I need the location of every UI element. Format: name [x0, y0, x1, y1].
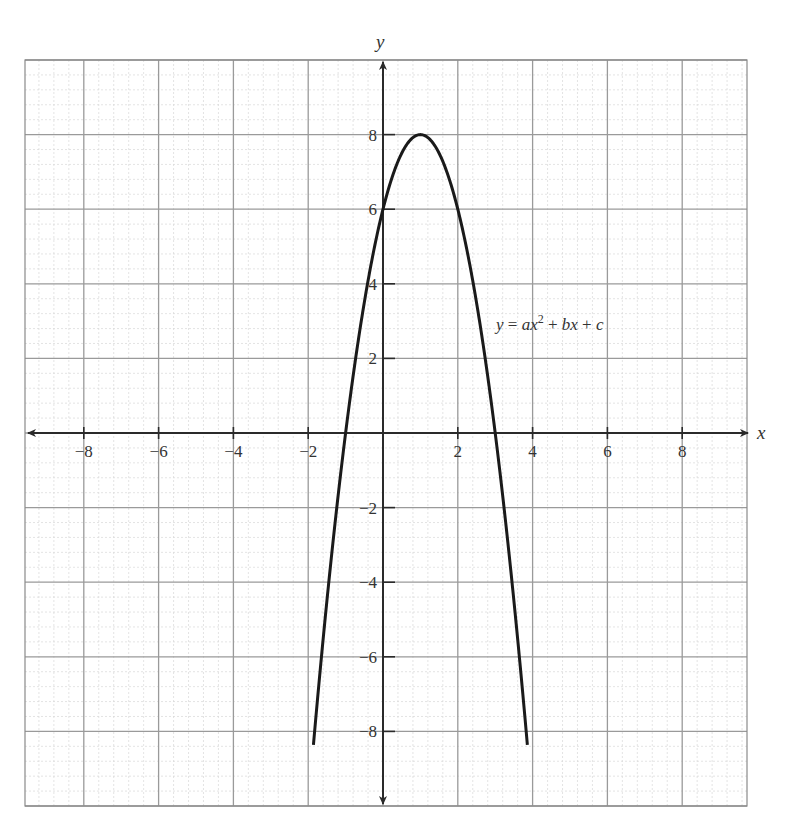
x-tick-label: −2 — [299, 442, 317, 461]
y-axis-label: y — [374, 31, 385, 52]
parabola-curve — [313, 135, 527, 745]
y-tick-label: 8 — [369, 126, 378, 145]
x-tick-label: 2 — [454, 442, 463, 461]
eq-plus-1: + — [544, 315, 562, 334]
parabola-chart: −8−6−4−22468−8−6−4−22468 x y y = ax2 + b… — [0, 0, 787, 838]
eq-plus-2: + — [578, 315, 596, 334]
x-tick-label: 8 — [678, 442, 687, 461]
eq-bx: bx — [562, 315, 579, 334]
x-tick-label: −6 — [150, 442, 168, 461]
y-tick-label: 6 — [369, 200, 378, 219]
y-tick-label: −8 — [359, 722, 377, 741]
axes — [28, 62, 748, 804]
x-axis-label: x — [756, 422, 766, 443]
y-tick-label: −4 — [359, 573, 378, 592]
y-tick-label: 2 — [369, 349, 378, 368]
equation-label: y = ax2 + bx + c — [494, 312, 604, 334]
y-tick-label: −2 — [359, 499, 377, 518]
eq-y: y — [494, 315, 504, 334]
x-tick-label: 6 — [603, 442, 612, 461]
x-tick-label: −8 — [75, 442, 93, 461]
eq-ax: ax — [522, 315, 539, 334]
x-tick-label: −4 — [224, 442, 243, 461]
y-tick-label: −6 — [359, 648, 377, 667]
eq-c: c — [596, 315, 604, 334]
x-tick-label: 4 — [528, 442, 537, 461]
eq-equals: = — [504, 315, 522, 334]
